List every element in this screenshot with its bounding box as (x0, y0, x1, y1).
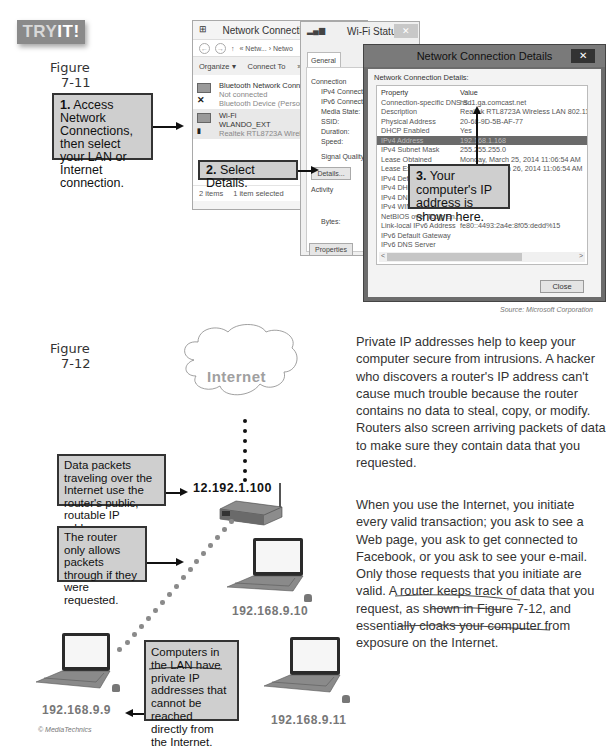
window-title: Network Connection Details (364, 45, 605, 67)
computer-ip-192-168-9-9: 192.168.9.9 (42, 703, 111, 717)
breadcrumb[interactable]: « Netw... › Netwo (240, 45, 293, 52)
computer-ip-192-168-9-10: 192.168.9.10 (232, 604, 308, 618)
scrollbar-thumb[interactable] (387, 253, 522, 261)
network-icon: ⊞ (199, 24, 207, 34)
mouse-icon (342, 695, 350, 703)
wifi-adapter-icon: ▮ (197, 111, 215, 129)
callout-data-packets: Data packets traveling over the Internet… (57, 454, 166, 506)
table-row-selected[interactable]: IPv4 Address192.168.1.168 (377, 136, 587, 146)
image-source-credit: Source: Microsoft Corporation (500, 306, 593, 313)
figure-7-12-label: Figure 7-12 (50, 341, 91, 371)
callout-router-filter: The router only allows packets through i… (57, 526, 147, 582)
internet-cloud-icon (180, 322, 300, 400)
internet-label: Internet (207, 368, 266, 385)
back-icon[interactable]: ← (199, 43, 210, 54)
figure-7-11-label: Figure 7-11 (50, 60, 91, 90)
arrow-up-icon (473, 106, 481, 114)
forward-icon[interactable]: → (215, 43, 226, 54)
table-row[interactable]: DHCP EnabledYes (377, 126, 587, 136)
callout-step-3: 3. Your computer's IP address is shown h… (408, 164, 510, 209)
connect-to-button[interactable]: Connect To (248, 62, 286, 71)
image-credit: © MediaTechnics (38, 726, 92, 733)
table-row[interactable]: Lease ObtainedMonday, March 25, 2014 11:… (377, 155, 587, 165)
table-row[interactable]: Physical Address20-68-9D-5B-AF-77 (377, 117, 587, 127)
try-it-badge: TRYIT! (17, 20, 85, 44)
up-icon[interactable]: ↑ (231, 45, 235, 52)
handwritten-annotation (390, 594, 560, 644)
laptop-icon (225, 537, 307, 599)
paragraph-private-ip-security: Private IP addresses help to keep your c… (356, 333, 606, 471)
arrow-line (166, 492, 181, 494)
laptop-icon (34, 632, 114, 694)
signal-bars-icon: ▮ (197, 127, 201, 135)
computer-ip-192-168-9-11: 192.168.9.11 (271, 713, 346, 727)
callout-private-ips: Computers in the LAN have private IP add… (144, 640, 239, 721)
disconnected-x-icon: ✕ (197, 95, 205, 105)
organize-menu[interactable]: Organize ▾ (199, 62, 236, 71)
handwritten-underline (148, 665, 228, 673)
arrow-right-icon (180, 488, 188, 496)
signal-icon: ▂▄▆ (307, 26, 325, 35)
close-button[interactable]: ✕ (571, 49, 595, 63)
tab-general[interactable]: General (307, 52, 341, 68)
arrow-right-icon (311, 166, 319, 174)
mouse-icon (112, 684, 120, 692)
laptop-icon (262, 636, 344, 698)
arrow-line (147, 562, 177, 564)
arrow-right-icon (176, 558, 184, 566)
table-row[interactable]: DescriptionRealtek RTL8723A Wireless LAN… (377, 107, 587, 117)
horizontal-scrollbar[interactable]: < > (379, 252, 585, 262)
router-icon (216, 483, 286, 527)
table-row[interactable]: IPv6 Default Gateway (377, 231, 587, 241)
callout-step-1: 1. Access Network Connections, then sele… (52, 93, 153, 160)
table-row[interactable]: IPv4 Subnet Mask255.255.255.0 (377, 145, 587, 155)
callout-step-2: 2. Select Details. (198, 160, 298, 180)
table-row[interactable]: Connection-specific DNS S...hsd1.ga.comc… (377, 98, 587, 108)
properties-button[interactable]: Properties (309, 243, 353, 256)
arrow-right-icon (176, 122, 184, 130)
arrow-line (132, 713, 144, 715)
table-row[interactable]: IPv6 DNS Server (377, 240, 587, 250)
arrow-line (298, 170, 312, 172)
close-button[interactable]: ✕ (394, 24, 418, 38)
arrow-line (153, 126, 177, 128)
scroll-right-icon[interactable]: > (579, 252, 583, 259)
scroll-left-icon[interactable]: < (381, 252, 385, 259)
arrow-line (476, 112, 478, 164)
network-adapter-icon: ✕ (197, 81, 215, 99)
close-dialog-button[interactable]: Close (540, 280, 584, 293)
mouse-icon (304, 594, 312, 602)
table-header: PropertyValue (377, 88, 587, 98)
